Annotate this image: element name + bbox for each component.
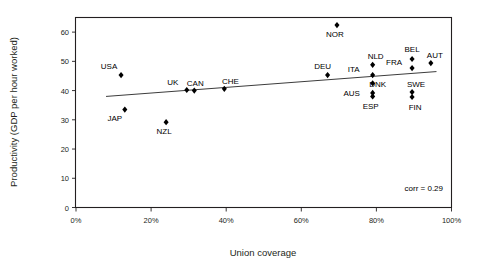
y-tick-label: 30	[61, 116, 69, 125]
data-point-label: UK	[167, 78, 179, 87]
data-point-label: SWE	[407, 80, 425, 89]
chart-background	[0, 0, 483, 274]
data-point-label: FIN	[409, 103, 422, 112]
y-tick-label: 10	[61, 174, 69, 183]
x-tick-label: 80%	[369, 216, 384, 225]
y-tick-label: 20	[61, 145, 69, 154]
data-point-label: FRA	[386, 58, 403, 67]
data-point-label: ESP	[363, 102, 379, 111]
x-tick-label: 20%	[144, 216, 159, 225]
x-tick-label: 40%	[219, 216, 234, 225]
data-point-label: DNK	[369, 80, 387, 89]
data-point-label: NLD	[368, 52, 384, 61]
x-axis-label: Union coverage	[230, 247, 297, 258]
data-point: DNK	[369, 80, 387, 89]
chart-canvas: 0102030405060 0%20%40%60%80%100% USAJAPN…	[0, 0, 483, 274]
y-tick-label: 50	[61, 57, 69, 66]
data-point-label: NOR	[326, 30, 344, 39]
data-point-label: CAN	[187, 79, 204, 88]
data-point-label: AUT	[427, 51, 443, 60]
data-point-label: ITA	[348, 65, 361, 74]
scatter-chart-figure: 0102030405060 0%20%40%60%80%100% USAJAPN…	[0, 0, 483, 274]
y-tick-label: 60	[61, 28, 69, 37]
data-point-label: BEL	[405, 45, 421, 54]
y-tick-label: 0	[65, 204, 69, 213]
y-axis-label: Productivity (GDP per hour worked)	[8, 37, 19, 187]
correlation-annotation: corr = 0.29	[405, 184, 444, 193]
data-point-label: JAP	[107, 114, 122, 123]
data-point-label: AUS	[343, 89, 359, 98]
x-tick-label: 0%	[71, 216, 82, 225]
data-point-label: DEU	[314, 62, 331, 71]
data-point-label: USA	[101, 62, 118, 71]
y-tick-label: 40	[61, 87, 69, 96]
data-point-label: NZL	[157, 127, 173, 136]
data-point-label: CHE	[222, 77, 239, 86]
x-tick-label: 60%	[294, 216, 309, 225]
x-tick-label: 100%	[442, 216, 462, 225]
